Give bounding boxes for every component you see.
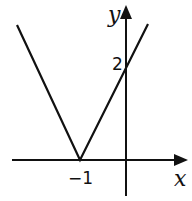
graph-canvas: y x 2 −1: [0, 0, 192, 201]
x-axis-label: x: [174, 166, 187, 191]
x-tick-label: −1: [68, 168, 93, 188]
y-axis-label: y: [107, 2, 121, 27]
function-curve: [17, 24, 148, 160]
y-intercept-label: 2: [112, 54, 123, 74]
y-axis-arrow-icon: [120, 5, 132, 19]
x-axis-arrow-icon: [174, 154, 188, 166]
